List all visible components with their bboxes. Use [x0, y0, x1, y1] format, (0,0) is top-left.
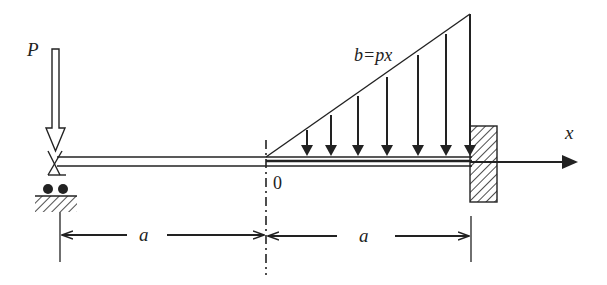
dimension-left [60, 212, 264, 262]
distributed-load-outline [266, 14, 470, 157]
span-left-label: a [139, 225, 149, 244]
distributed-load-arrows [301, 14, 476, 156]
diagram-canvas [0, 0, 607, 285]
load-arrow-5 [412, 55, 424, 156]
load-arrow-1 [301, 130, 313, 156]
x-axis-label: x [565, 123, 573, 142]
beam-left-segment [57, 157, 266, 166]
dimension-right [268, 216, 471, 262]
point-load-label: P [27, 40, 39, 59]
load-arrow-2 [325, 115, 337, 156]
load-arrow-4 [381, 77, 393, 156]
roller-support [35, 151, 77, 212]
beam-right-segment [266, 157, 472, 166]
beam-diagram: P b=px x 0 a a [0, 0, 607, 285]
point-load-arrow [46, 49, 65, 151]
span-right-label: a [359, 226, 369, 245]
distributed-load-label: b=px [354, 46, 392, 64]
fixed-wall [470, 126, 497, 202]
origin-label: 0 [273, 174, 282, 192]
load-arrow-3 [352, 96, 364, 156]
load-arrow-6 [440, 34, 452, 156]
